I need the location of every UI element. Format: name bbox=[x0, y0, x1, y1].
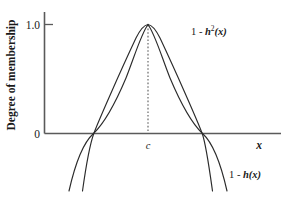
curve-one-minus-h bbox=[83, 25, 213, 192]
curve-label-quadratic-prefix: 1 - bbox=[191, 26, 205, 37]
curve-one-minus-h-squared bbox=[69, 25, 227, 192]
y-tick-label-zero: 0 bbox=[34, 128, 40, 140]
x-axis-center-label: c bbox=[146, 140, 151, 151]
membership-function-figure: 1.0 0 Degree of membership 1 - h2(x) 1 -… bbox=[0, 0, 290, 197]
curve-label-quadratic: 1 - h2(x) bbox=[191, 24, 227, 39]
y-tick-label-one: 1.0 bbox=[26, 19, 41, 31]
curve-label-linear-prefix: 1 - bbox=[229, 169, 243, 180]
curve-label-linear: 1 - h(x) bbox=[229, 169, 261, 181]
x-axis-variable-label: x bbox=[255, 139, 262, 151]
y-axis-title: Degree of membership bbox=[5, 20, 18, 131]
figure-canvas: 1.0 0 Degree of membership 1 - h2(x) 1 -… bbox=[0, 0, 290, 197]
curve-label-linear-arg: (x) bbox=[249, 169, 261, 181]
curve-label-quadratic-arg: (x) bbox=[215, 26, 227, 38]
